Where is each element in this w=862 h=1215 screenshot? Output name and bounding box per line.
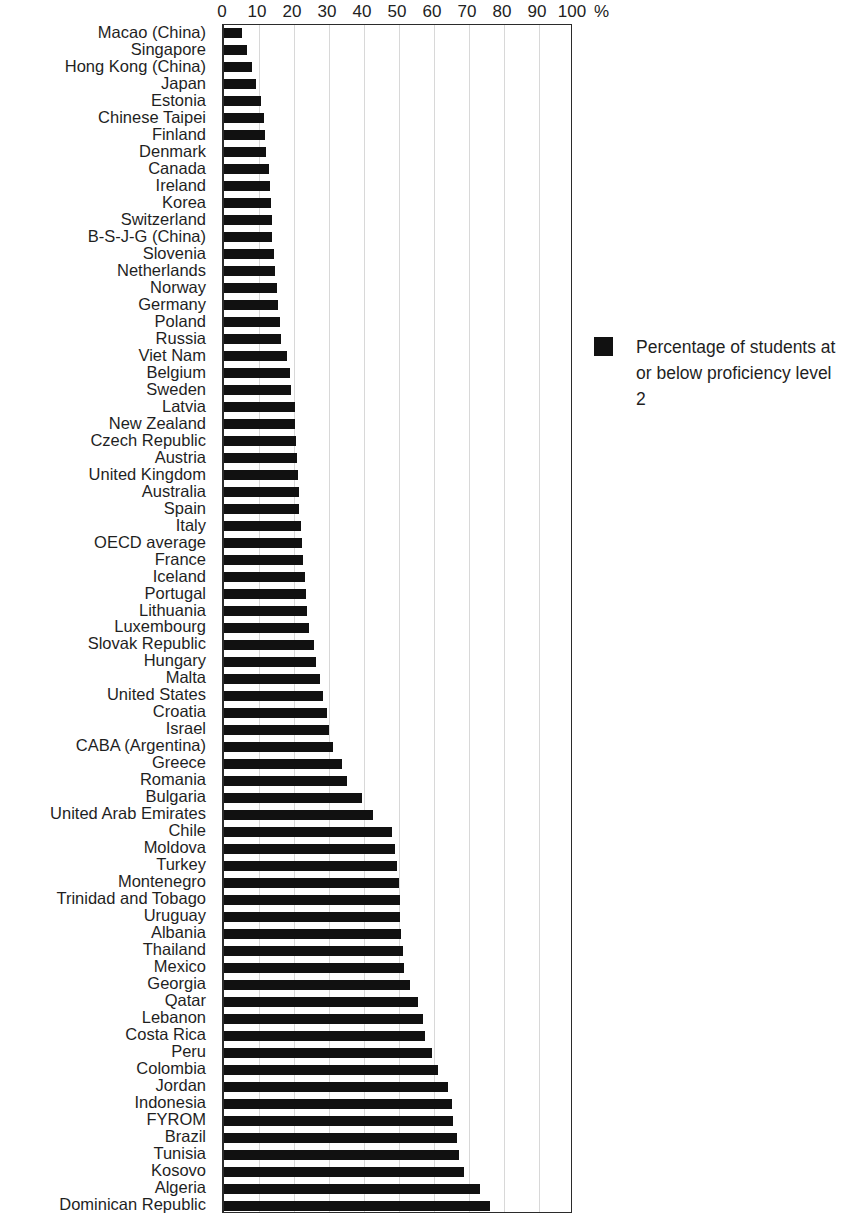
bar — [224, 844, 395, 854]
bar — [224, 912, 400, 922]
category-label: France — [155, 551, 206, 568]
category-label: Hong Kong (China) — [65, 58, 206, 75]
legend-swatch-icon — [594, 337, 613, 356]
bar — [224, 28, 242, 38]
category-label: Colombia — [136, 1060, 206, 1077]
category-label: Mexico — [154, 958, 206, 975]
bar — [224, 181, 270, 191]
category-label: Korea — [162, 194, 206, 211]
bar — [224, 657, 316, 667]
category-label: Iceland — [153, 568, 206, 585]
category-label: Qatar — [165, 992, 206, 1009]
category-label: Greece — [152, 754, 206, 771]
bar — [224, 130, 265, 140]
bar — [224, 1133, 457, 1143]
category-label: Sweden — [146, 381, 206, 398]
category-label: Spain — [164, 500, 206, 517]
category-label: Tunisia — [153, 1145, 206, 1162]
x-tick-label: 10 — [248, 2, 267, 22]
category-label: Montenegro — [118, 873, 206, 890]
category-label: New Zealand — [109, 415, 206, 432]
bar — [224, 1167, 464, 1177]
category-label: Poland — [155, 313, 206, 330]
bar — [224, 453, 297, 463]
category-label: Viet Nam — [138, 347, 206, 364]
bar — [224, 1048, 432, 1058]
bar — [224, 1082, 448, 1092]
bar — [224, 1031, 425, 1041]
category-label: Estonia — [151, 92, 206, 109]
x-tick-label: 20 — [283, 2, 302, 22]
bar — [224, 589, 306, 599]
bar — [224, 793, 362, 803]
bar-chart: 0102030405060708090100% Macao (China)Sin… — [0, 0, 862, 1215]
category-label: FYROM — [146, 1111, 206, 1128]
category-label: Moldova — [144, 839, 206, 856]
category-label: Malta — [166, 669, 206, 686]
bar — [224, 742, 333, 752]
category-label: Israel — [166, 720, 206, 737]
category-label: Lithuania — [139, 602, 206, 619]
category-label: Ireland — [156, 177, 206, 194]
legend-label: Percentage of students at or below profi… — [636, 334, 846, 412]
bar — [224, 691, 323, 701]
bar — [224, 572, 305, 582]
bar — [224, 521, 301, 531]
category-label: Lebanon — [142, 1009, 206, 1026]
bar — [224, 215, 272, 225]
bar — [224, 113, 264, 123]
bars-layer — [224, 25, 571, 1212]
category-label: Kosovo — [151, 1162, 206, 1179]
category-label: United Arab Emirates — [50, 805, 206, 822]
category-label: United Kingdom — [89, 466, 206, 483]
bar — [224, 470, 298, 480]
bar — [224, 351, 287, 361]
category-label: Romania — [140, 771, 206, 788]
bar — [224, 266, 275, 276]
bar — [224, 810, 373, 820]
category-label: Switzerland — [121, 211, 206, 228]
category-label: Singapore — [131, 41, 206, 58]
category-label: Belgium — [146, 364, 206, 381]
bar — [224, 368, 290, 378]
category-axis-labels: Macao (China)SingaporeHong Kong (China)J… — [0, 24, 212, 1213]
bar — [224, 708, 327, 718]
category-label: Uruguay — [144, 907, 206, 924]
category-label: Turkey — [156, 856, 206, 873]
bar — [224, 725, 329, 735]
bar — [224, 283, 277, 293]
bar — [224, 1014, 423, 1024]
bar — [224, 640, 314, 650]
x-tick-label: 60 — [423, 2, 442, 22]
category-label: CABA (Argentina) — [76, 737, 206, 754]
x-tick-label: 100 — [558, 2, 586, 22]
bar — [224, 1065, 438, 1075]
category-label: Macao (China) — [98, 24, 206, 41]
category-label: Finland — [152, 126, 206, 143]
x-tick-label: 30 — [318, 2, 337, 22]
bar — [224, 1201, 490, 1211]
bar — [224, 45, 247, 55]
x-tick-label: 70 — [458, 2, 477, 22]
bar — [224, 419, 295, 429]
bar — [224, 946, 403, 956]
category-label: United States — [107, 686, 206, 703]
x-tick-label: 80 — [493, 2, 512, 22]
bar — [224, 300, 278, 310]
bar — [224, 980, 410, 990]
plot-area — [222, 24, 572, 1213]
bar — [224, 759, 342, 769]
category-label: Slovenia — [143, 245, 206, 262]
bar — [224, 861, 397, 871]
category-label: Bulgaria — [145, 788, 206, 805]
category-label: Dominican Republic — [59, 1196, 206, 1213]
category-label: Algeria — [155, 1179, 206, 1196]
bar — [224, 1150, 459, 1160]
category-label: Netherlands — [117, 262, 206, 279]
category-label: Canada — [148, 160, 206, 177]
category-label: Australia — [142, 483, 206, 500]
category-label: OECD average — [94, 534, 206, 551]
category-label: Georgia — [147, 975, 206, 992]
bar — [224, 1184, 480, 1194]
x-tick-label: 40 — [353, 2, 372, 22]
